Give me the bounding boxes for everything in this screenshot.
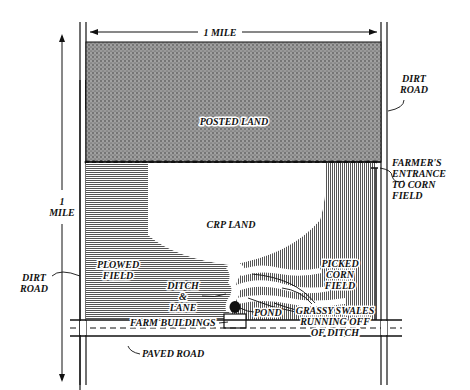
svg-text:LANE: LANE xyxy=(169,302,197,313)
farm-site-diagram: 1 MILE 1 MILE POSTED LAND CRP LAND PLOWE… xyxy=(0,0,470,390)
picked-corn-label-2: CORN xyxy=(326,269,355,280)
height-label-1: 1 xyxy=(60,196,65,207)
farm-building-shape xyxy=(224,314,246,328)
callout-farm-buildings: FARM BUILDINGS xyxy=(129,317,228,328)
svg-text:RUNNING OFF: RUNNING OFF xyxy=(299,316,370,327)
svg-text:OF DITCH: OF DITCH xyxy=(311,327,360,338)
road-junction-right xyxy=(381,321,387,335)
callout-farmers-entrance: FARMER'S ENTRANCE TO CORN FIELD xyxy=(380,157,446,201)
svg-text:ROAD: ROAD xyxy=(19,283,48,294)
svg-text:&: & xyxy=(179,291,187,302)
pond-shape xyxy=(230,301,241,313)
svg-text:PAVED ROAD: PAVED ROAD xyxy=(142,348,204,359)
svg-text:FARM BUILDINGS: FARM BUILDINGS xyxy=(129,317,216,328)
picked-corn-label-3: FIELD xyxy=(324,280,356,291)
svg-text:GRASSY SWALES: GRASSY SWALES xyxy=(296,305,375,316)
height-label-2: MILE xyxy=(48,207,75,218)
posted-land-region xyxy=(86,42,381,162)
plowed-field-label-2: FIELD xyxy=(102,270,134,281)
posted-land-label: POSTED LAND xyxy=(200,116,269,127)
callout-paved-road: PAVED ROAD xyxy=(128,346,204,359)
arrow-down-icon xyxy=(59,374,65,382)
callout-dirt-road-left: DIRT ROAD xyxy=(19,272,80,294)
plowed-field-label-1: PLOWED xyxy=(97,259,139,270)
svg-text:DITCH: DITCH xyxy=(166,280,200,291)
width-dimension: 1 MILE xyxy=(90,27,377,38)
svg-text:DIRT: DIRT xyxy=(21,272,47,283)
width-label: 1 MILE xyxy=(203,27,236,38)
road-junction-left xyxy=(80,321,86,335)
height-dimension: 1 MILE xyxy=(48,34,75,382)
svg-text:POND: POND xyxy=(254,307,282,318)
picked-corn-label-1: PICKED xyxy=(321,258,358,269)
arrow-left-icon xyxy=(90,29,98,35)
svg-text:ROAD: ROAD xyxy=(399,84,428,95)
svg-text:DIRT: DIRT xyxy=(401,73,427,84)
svg-text:ENTRANCE: ENTRANCE xyxy=(391,168,446,179)
svg-text:FIELD: FIELD xyxy=(391,190,423,201)
crp-land-label: CRP LAND xyxy=(207,219,256,230)
callout-dirt-road-right: DIRT ROAD xyxy=(388,73,428,111)
arrow-up-icon xyxy=(59,34,65,42)
svg-text:FARMER'S: FARMER'S xyxy=(391,157,442,168)
svg-text:TO CORN: TO CORN xyxy=(392,179,436,190)
arrow-right-icon xyxy=(369,29,377,35)
